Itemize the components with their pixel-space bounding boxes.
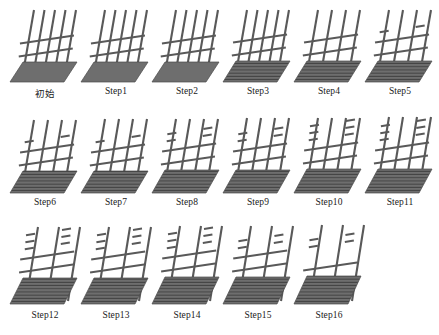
rebar-sequence-figure: 初始Step1Step2Step3Step4Step5 Step6Step7St… [0,0,439,335]
sequence-panel: Step3 [221,0,295,112]
panel-caption: Step14 [150,310,224,320]
panel-caption: Step9 [221,197,295,207]
panel-caption: Step5 [363,86,437,96]
sequence-panel: Step7 [79,111,153,223]
panel-row-3: Step12Step13Step14Step15Step16 [0,222,439,334]
sequence-panel: Step5 [363,0,437,112]
panel-drawing [79,222,153,312]
panel-drawing [8,222,82,312]
sequence-panel: Step14 [150,222,224,334]
sequence-panel: Step8 [150,111,224,223]
panel-drawing [8,0,82,90]
panel-caption: Step8 [150,197,224,207]
panel-drawing [79,111,153,201]
panel-drawing [150,0,224,90]
sequence-panel: Step1 [79,0,153,112]
panel-caption: Step1 [79,86,153,96]
sequence-panel: Step12 [8,222,82,334]
panel-drawing [221,222,295,312]
sequence-panel: Step2 [150,0,224,112]
sequence-panel: Step13 [79,222,153,334]
sequence-panel: Step16 [292,222,366,334]
panel-caption: 初始 [8,86,82,100]
sequence-panel: Step4 [292,0,366,112]
panel-drawing [221,111,295,201]
panel-drawing [221,0,295,90]
sequence-panel: Step11 [363,111,437,223]
panel-drawing [8,111,82,201]
panel-caption: Step11 [363,197,437,207]
panel-caption: Step16 [292,310,366,320]
panel-caption: Step3 [221,86,295,96]
panel-caption: Step4 [292,86,366,96]
panel-drawing [79,0,153,90]
panel-caption: Step2 [150,86,224,96]
panel-caption: Step10 [292,197,366,207]
panel-row-2: Step6Step7Step8Step9Step10Step11 [0,111,439,223]
panel-drawing [292,111,366,201]
sequence-panel: 初始 [8,0,82,112]
panel-caption: Step6 [8,197,82,207]
sequence-panel: Step15 [221,222,295,334]
sequence-panel: Step9 [221,111,295,223]
panel-drawing [292,0,366,90]
panel-row-1: 初始Step1Step2Step3Step4Step5 [0,0,439,112]
panel-caption: Step13 [79,310,153,320]
panel-caption: Step12 [8,310,82,320]
panel-caption: Step15 [221,310,295,320]
panel-caption: Step7 [79,197,153,207]
sequence-panel: Step10 [292,111,366,223]
sequence-panel: Step6 [8,111,82,223]
panel-drawing [363,0,437,90]
panel-drawing [150,222,224,312]
panel-drawing [150,111,224,201]
panel-drawing [292,222,366,312]
panel-drawing [363,111,437,201]
